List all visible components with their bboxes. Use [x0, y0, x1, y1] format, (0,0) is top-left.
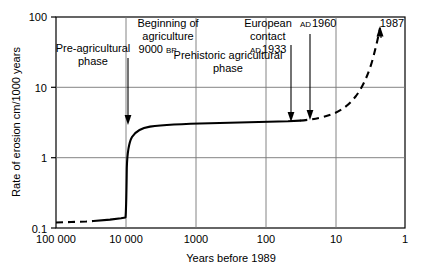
erosion-rate-chart-figure: 100 10 1 0.1 Rate of erosion cm/1000 yea…	[0, 0, 427, 270]
anno-european-line1: European	[244, 17, 292, 29]
anno-european-era: AD	[250, 46, 261, 55]
anno-european-line2: contact	[250, 30, 285, 42]
ytick-label-1: 1	[41, 152, 47, 164]
anno-1987-value: 1987	[380, 17, 404, 29]
xtick-label-1000: 1000	[184, 233, 208, 245]
xtick-label-10000: 10 000	[109, 233, 143, 245]
xtick-label-10: 10	[330, 233, 342, 245]
xtick-label-100: 100	[257, 233, 275, 245]
anno-pre-agricultural-line1: Pre-agricultural	[56, 42, 131, 54]
anno-ad1960-era: AD	[300, 20, 311, 29]
xtick-label-1: 1	[402, 233, 408, 245]
x-axis-title: Years before 1989	[186, 252, 276, 264]
anno-european-value: 1933	[262, 43, 286, 55]
anno-pre-agricultural-line2: phase	[78, 55, 108, 67]
anno-beginning-value: 9000	[139, 43, 163, 55]
curve-early-dashed	[56, 221, 94, 223]
chart-canvas: 100 10 1 0.1 Rate of erosion cm/1000 yea…	[0, 0, 427, 270]
ytick-label-10: 10	[35, 82, 47, 94]
anno-prehistoric-line2: phase	[213, 62, 243, 74]
anno-beginning-line1: Beginning of	[137, 17, 199, 29]
anno-beginning-line2: agriculture	[142, 30, 193, 42]
anno-ad1960-value: 1960	[312, 17, 336, 29]
ytick-label-100: 100	[29, 11, 47, 23]
curve-main-solid	[94, 121, 301, 221]
xtick-label-100000: 100 000	[36, 233, 76, 245]
y-axis-title: Rate of erosion cm/1000 years	[10, 47, 22, 197]
curve-modern-dashed	[300, 28, 380, 121]
